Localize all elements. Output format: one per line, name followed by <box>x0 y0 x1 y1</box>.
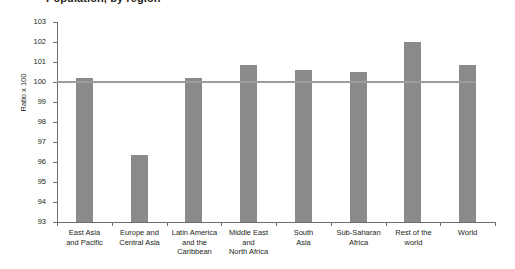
category-label-line: East Asia <box>57 228 112 238</box>
y-tick-label-99: 99 <box>38 97 46 106</box>
x-tick-7 <box>440 222 441 226</box>
y-axis-label: Ratio x 100 <box>19 58 28 128</box>
category-label: Rest of theworld <box>386 228 441 247</box>
y-tick-103: 103 <box>53 22 57 23</box>
y-tick-label-94: 94 <box>38 197 46 206</box>
category-label-line: and <box>221 238 276 248</box>
x-tick-5 <box>331 222 332 226</box>
x-tick-8 <box>495 222 496 226</box>
category-label: Europe andCentral Asia <box>112 228 167 247</box>
category-label: Middle EastandNorth Africa <box>221 228 276 257</box>
category-label-line: Europe and <box>112 228 167 238</box>
y-tick-label-101: 101 <box>33 57 46 66</box>
y-tick-label-102: 102 <box>33 37 46 46</box>
bar <box>459 65 476 222</box>
category-label: World <box>440 228 495 238</box>
category-label-line: South <box>276 228 331 238</box>
category-label-line: Asia <box>276 238 331 248</box>
reference-line-100 <box>57 81 476 83</box>
y-tick-label-100: 100 <box>33 77 46 86</box>
x-tick-0 <box>57 222 58 226</box>
y-tick-label-96: 96 <box>38 157 46 166</box>
x-tick-3 <box>221 222 222 226</box>
y-tick-label-97: 97 <box>38 137 46 146</box>
category-label: East Asiaand Pacific <box>57 228 112 247</box>
category-label: Latin Americaand theCaribbean <box>167 228 222 257</box>
category-label: SouthAsia <box>276 228 331 247</box>
bar <box>404 42 421 222</box>
y-tick-97: 97 <box>53 142 57 143</box>
category-label-line: Sub-Saharan <box>331 228 386 238</box>
bar <box>295 70 312 222</box>
y-tick-101: 101 <box>53 62 57 63</box>
bar <box>131 155 148 222</box>
category-label-line: Caribbean <box>167 247 222 257</box>
y-tick-96: 96 <box>53 162 57 163</box>
category-label-line: and Pacific <box>57 238 112 248</box>
category-label-line: world <box>386 238 441 248</box>
x-tick-2 <box>167 222 168 226</box>
category-label-line: Central Asia <box>112 238 167 248</box>
category-label-line: North Africa <box>221 247 276 257</box>
bar <box>350 72 367 222</box>
y-tick-label-95: 95 <box>38 177 46 186</box>
bar <box>240 65 257 222</box>
bar <box>185 78 202 222</box>
category-label-line: and the <box>167 238 222 248</box>
y-axis-line <box>57 22 58 222</box>
chart-container: Population, by region Ratio x 100 103102… <box>0 0 515 269</box>
category-label: Sub-SaharanAfrica <box>331 228 386 247</box>
y-tick-label-103: 103 <box>33 17 46 26</box>
plot-area: 10310210110099989796959493 East Asiaand … <box>57 22 495 222</box>
category-label-line: World <box>440 228 495 238</box>
category-label-line: Latin America <box>167 228 222 238</box>
chart-title: Population, by region <box>46 0 161 4</box>
y-tick-label-98: 98 <box>38 117 46 126</box>
bar <box>76 78 93 222</box>
y-tick-94: 94 <box>53 202 57 203</box>
y-tick-98: 98 <box>53 122 57 123</box>
x-tick-4 <box>276 222 277 226</box>
y-tick-95: 95 <box>53 182 57 183</box>
y-tick-99: 99 <box>53 102 57 103</box>
category-label-line: Middle East <box>221 228 276 238</box>
y-tick-label-93: 93 <box>38 217 46 226</box>
category-label-line: Africa <box>331 238 386 248</box>
x-tick-6 <box>386 222 387 226</box>
x-tick-1 <box>112 222 113 226</box>
y-tick-102: 102 <box>53 42 57 43</box>
category-label-line: Rest of the <box>386 228 441 238</box>
